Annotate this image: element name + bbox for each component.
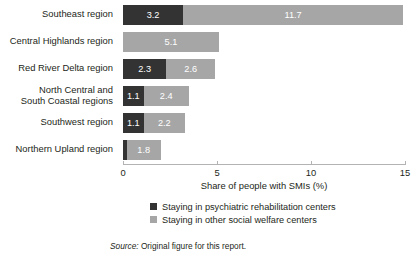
bar-value-label: 2.4 [160,91,173,101]
chart-row: Central Highlands region5.1 [0,28,411,55]
bar-segment: 11.7 [183,5,403,25]
stacked-bar: 1.8 [123,140,161,160]
source-note: Source: Original figure for this report. [110,241,246,251]
category-label: Southeast region [0,1,113,28]
x-axis-tick [123,161,124,165]
chart-row: Red River Delta region2.32.6 [0,55,411,82]
legend-swatch-icon-light [150,216,157,223]
legend-label-psychiatric-rehabilitation-centers: Staying in psychiatric rehabilitation ce… [162,202,336,212]
bar-segment: 2.4 [144,86,189,106]
x-axis-line [123,164,405,165]
bar-segment: 2.2 [144,113,185,133]
chart-row: North Central and South Coastal regions1… [0,82,411,109]
chart-legend: Staying in psychiatric rehabilitation ce… [150,200,336,226]
legend-label-other-social-welfare-centers: Staying in other social welfare centers [162,215,317,225]
x-axis-tick-label: 15 [400,167,410,178]
legend-swatch-icon-dark [150,203,157,210]
source-text: Original figure for this report. [139,241,246,251]
bar-value-label: 3.2 [147,10,160,20]
stacked-bar: 3.211.7 [123,5,403,25]
bar-value-label: 1.8 [137,145,150,155]
bar-value-label: 1.1 [127,118,140,128]
bar-segment: 1.1 [123,113,144,133]
stacked-bar: 5.1 [123,32,219,52]
stacked-bar: 1.12.4 [123,86,189,106]
x-axis-tick [217,161,218,165]
bar-segment: 1.1 [123,86,144,106]
bar-segment: 5.1 [123,32,219,52]
chart-row: Southwest region1.12.2 [0,109,411,136]
stacked-bar: 1.12.2 [123,113,185,133]
bar-value-label: 2.3 [138,64,151,74]
bar-value-label: 5.1 [165,37,178,47]
bar-segment: 1.8 [127,140,161,160]
bar-chart-figure: Southeast region3.211.7Central Highlands… [0,0,411,258]
category-label: Southwest region [0,109,113,136]
x-axis-tick-label: 0 [120,167,125,178]
category-label: Northern Upland region [0,136,113,163]
bar-segment: 2.6 [166,59,215,79]
category-label: Red River Delta region [0,55,113,82]
bar-segment: 3.2 [123,5,183,25]
bar-value-label: 2.6 [184,64,197,74]
legend-item-other-social-welfare-centers: Staying in other social welfare centers [150,213,336,226]
category-label: Central Highlands region [0,28,113,55]
source-prefix: Source: [110,241,139,251]
bar-segment: 2.3 [123,59,166,79]
bar-value-label: 2.2 [158,118,171,128]
x-axis-tick [405,161,406,165]
bar-value-label: 11.7 [285,10,302,20]
chart-row: Southeast region3.211.7 [0,1,411,28]
bar-value-label: 1.1 [127,91,140,101]
category-label: North Central and South Coastal regions [0,82,113,109]
legend-item-psychiatric-rehabilitation-centers: Staying in psychiatric rehabilitation ce… [150,200,336,213]
x-axis-title: Share of people with SMIs (%) [123,180,405,191]
plot-area: Southeast region3.211.7Central Highlands… [0,0,411,165]
x-axis-tick-label: 10 [306,167,316,178]
x-axis-tick-label: 5 [214,167,219,178]
x-axis-tick [311,161,312,165]
chart-row: Northern Upland region1.8 [0,136,411,163]
stacked-bar: 2.32.6 [123,59,215,79]
